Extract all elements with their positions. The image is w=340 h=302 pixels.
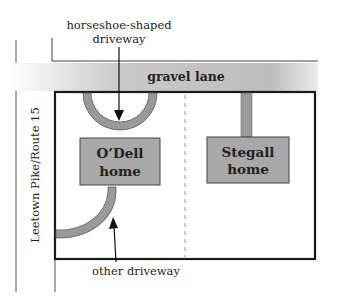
gravel-lane-label: gravel lane bbox=[147, 69, 225, 84]
stegall-home-label-line2: home bbox=[227, 161, 269, 177]
odell-home-label-line2: home bbox=[99, 163, 141, 179]
stegall-driveway bbox=[241, 93, 252, 137]
odell-home-label-line1: O’Dell bbox=[96, 145, 143, 161]
other-driveway-label: other driveway bbox=[92, 264, 180, 278]
property-diagram: Leetown Pike/Route 15 gravel lane O’Dell… bbox=[0, 0, 340, 302]
stegall-home-label-line1: Stegall bbox=[221, 144, 274, 160]
horseshoe-label-line1: horseshoe-shaped bbox=[66, 18, 172, 32]
horseshoe-label-line2: driveway bbox=[92, 32, 146, 46]
road-label: Leetown Pike/Route 15 bbox=[28, 107, 42, 242]
